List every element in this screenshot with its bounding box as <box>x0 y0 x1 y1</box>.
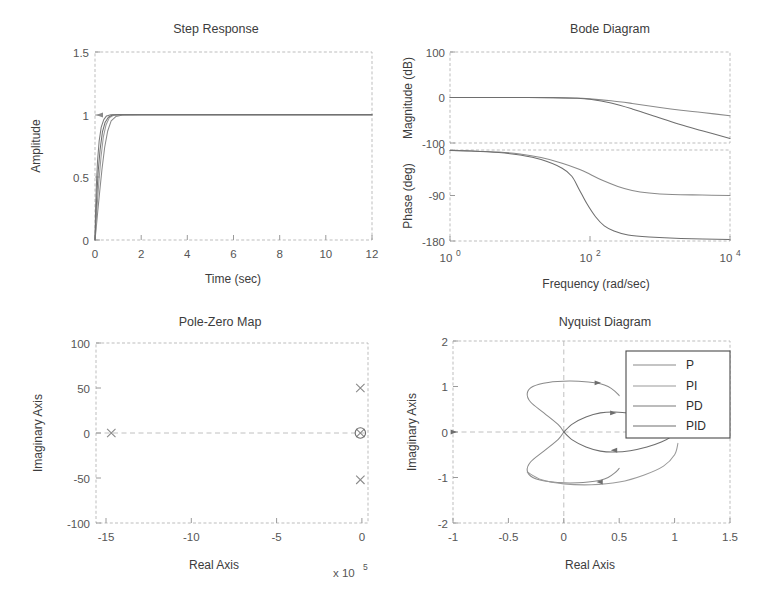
svg-text:x 10: x 10 <box>333 567 355 579</box>
svg-text:5: 5 <box>363 562 368 572</box>
step-plot-frame <box>95 52 372 240</box>
nyq-ytick-0: 0 <box>442 427 448 439</box>
step-xtick-6: 6 <box>230 248 236 260</box>
svg-text:10: 10 <box>720 252 733 264</box>
pole-zero-map-chart: Pole-Zero Map 100 50 0 -50 -100 <box>0 301 390 602</box>
pole-marker-x <box>356 476 364 484</box>
pz-xtick-m5: -5 <box>271 531 281 543</box>
nyquist-x-axis: -1 -0.5 0 0.5 1 1.5 <box>448 518 738 543</box>
bode-mag-ytick-0: 0 <box>439 92 445 104</box>
bode-magnitude-ylabel: Magnitude (dB) <box>401 57 415 139</box>
step-ytick-1: 1 <box>83 110 89 122</box>
panel-nyquist-diagram: Nyquist Diagram 2 1 0 -1 -2 <box>390 301 779 602</box>
legend-label-p: P <box>686 358 694 372</box>
nyq-xtick-m1: -1 <box>448 531 458 543</box>
nyquist-curve-large-loop-upper <box>527 381 619 432</box>
step-ytick-0_5: 0.5 <box>73 172 89 184</box>
bode-phase-yaxis: 0 -90 -180 <box>422 145 455 248</box>
step-x-axis: 0 2 4 6 8 10 12 <box>92 235 379 260</box>
nyquist-ylabel: Imaginary Axis <box>405 393 419 471</box>
bode-phase-ytick-0: 0 <box>439 145 445 157</box>
step-response-title: Step Response <box>173 22 259 36</box>
nyquist-legend[interactable]: P PI PD PID <box>626 351 730 438</box>
nyquist-diagram-chart: Nyquist Diagram 2 1 0 -1 -2 <box>390 301 779 602</box>
pz-ytick-0: 0 <box>84 428 90 440</box>
nyq-ytick-1: 1 <box>442 381 448 393</box>
bode-mag-ytick-100: 100 <box>426 47 445 59</box>
svg-text:2: 2 <box>596 248 601 258</box>
nyquist-arrow-markers-group <box>451 380 618 484</box>
nyquist-direction-arrow <box>595 380 601 385</box>
pz-ytick-100: 100 <box>71 338 90 350</box>
bode-diagram-chart: Bode Diagram 100 0 -100 0 <box>390 0 779 301</box>
panel-pole-zero-map: Pole-Zero Map 100 50 0 -50 -100 <box>0 301 390 602</box>
svg-text:10: 10 <box>580 252 593 264</box>
legend-label-pi: PI <box>686 379 697 393</box>
step-response-series-group <box>95 115 372 240</box>
svg-text:10: 10 <box>440 252 453 264</box>
bode-phase-ytick-m90: -90 <box>428 190 445 202</box>
nyquist-curve-large-loop-lower <box>527 432 619 483</box>
step-xtick-12: 12 <box>366 248 379 260</box>
step-xlabel: Time (sec) <box>205 272 261 286</box>
step-ytick-0: 0 <box>83 235 89 247</box>
bode-magnitude-yaxis: 100 0 -100 <box>422 47 455 150</box>
pz-xtick-m10: -10 <box>183 531 200 543</box>
bode-magnitude-first-order <box>450 97 730 115</box>
nyq-xtick-1: 1 <box>671 531 677 543</box>
legend-box <box>626 351 730 438</box>
nyq-xtick-1_5: 1.5 <box>722 531 738 543</box>
bode-phase-ylabel: Phase (deg) <box>401 163 415 228</box>
pole-zero-axis-exponent: x 10 5 <box>333 562 368 579</box>
nyquist-curve-outer-loop-lower <box>527 443 678 485</box>
bode-magnitude-second-order <box>450 97 730 138</box>
pz-xtick-0: 0 <box>359 531 365 543</box>
nyq-xtick-0_5: 0.5 <box>611 531 627 543</box>
pole-zero-ylabel: Imaginary Axis <box>31 394 45 472</box>
nyq-ytick-m2: -2 <box>438 518 448 530</box>
svg-text:4: 4 <box>736 248 741 258</box>
pole-zero-xlabel: Real Axis <box>189 558 239 572</box>
matlab-figure-canvas: Step Response 1.5 1 0.5 0 <box>0 0 779 602</box>
bode-xlabel: Frequency (rad/sec) <box>542 277 649 291</box>
nyquist-direction-arrow <box>610 410 616 415</box>
panel-step-response: Step Response 1.5 1 0.5 0 <box>0 0 390 301</box>
nyq-xtick-0: 0 <box>561 531 567 543</box>
nyquist-direction-arrow <box>451 430 457 435</box>
bode-phase-frame <box>450 150 730 241</box>
step-xtick-0: 0 <box>92 248 98 260</box>
bode-x-axis: 10 0 10 2 10 4 <box>440 236 741 264</box>
bode-xtick-10e0: 10 0 <box>440 248 461 264</box>
nyquist-diagram-title: Nyquist Diagram <box>559 315 651 329</box>
step-direction-arrow <box>96 113 103 118</box>
pole-zero-markers-group <box>107 384 365 484</box>
nyquist-xlabel: Real Axis <box>565 558 615 572</box>
pole-marker-x <box>356 384 364 392</box>
bode-diagram-title: Bode Diagram <box>570 22 650 36</box>
bode-phase-minus-90 <box>450 151 730 196</box>
step-response-chart: Step Response 1.5 1 0.5 0 <box>0 0 390 301</box>
pz-xtick-m15: -15 <box>98 531 115 543</box>
bode-xtick-10e4: 10 4 <box>720 248 741 264</box>
nyq-ytick-m1: -1 <box>438 472 448 484</box>
nyquist-y-axis: 2 1 0 -1 -2 <box>438 336 458 530</box>
step-ylabel: Amplitude <box>29 119 43 173</box>
nyq-xtick-m0_5: -0.5 <box>498 531 518 543</box>
step-series-pid <box>95 115 372 240</box>
pz-ytick-m100: -100 <box>67 518 90 530</box>
step-series-pi <box>95 115 372 240</box>
step-xtick-10: 10 <box>319 248 332 260</box>
legend-label-pd: PD <box>686 399 703 413</box>
step-series-pd <box>95 115 372 240</box>
bode-xtick-10e2: 10 2 <box>580 248 601 264</box>
panel-bode-diagram: Bode Diagram 100 0 -100 0 <box>390 0 779 301</box>
pz-ytick-m50: -50 <box>73 473 90 485</box>
legend-label-pid: PID <box>686 419 706 433</box>
bode-phase-series-group <box>450 151 730 240</box>
pz-ytick-50: 50 <box>77 383 90 395</box>
step-xtick-8: 8 <box>276 248 282 260</box>
step-xtick-2: 2 <box>138 248 144 260</box>
pole-zero-map-title: Pole-Zero Map <box>179 315 262 329</box>
svg-text:0: 0 <box>456 248 461 258</box>
step-series-p <box>95 115 372 240</box>
